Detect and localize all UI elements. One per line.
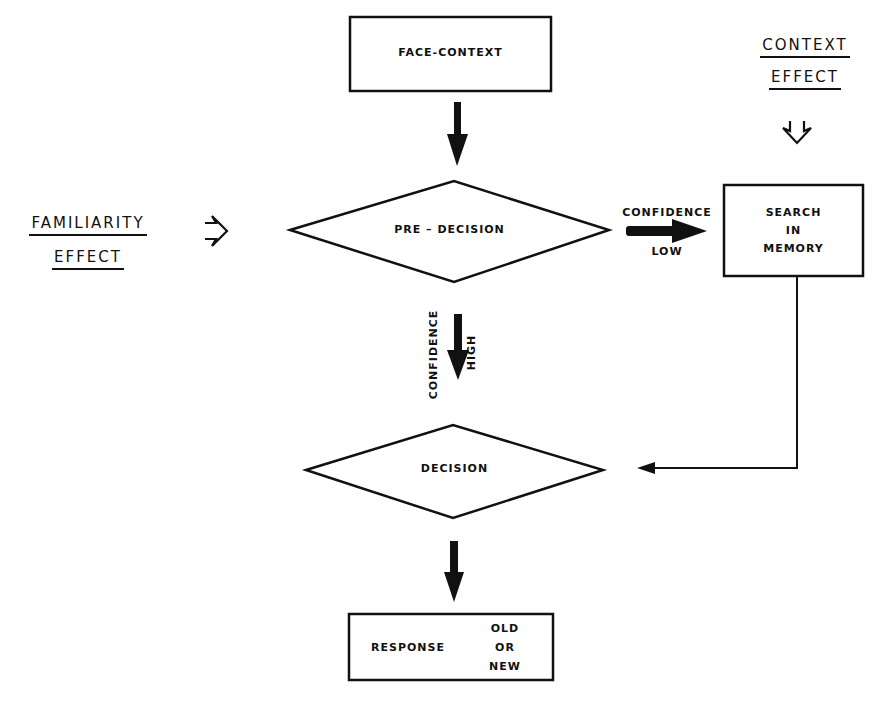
search-label-3: MEMORY (724, 242, 863, 256)
context-effect-line1: CONTEXT (740, 36, 870, 58)
arrow-down-icon (444, 541, 464, 602)
feedback-line (650, 276, 797, 468)
search-label-2: IN (724, 224, 863, 238)
confidence-high-left-label: CONFIDENCE (427, 310, 440, 400)
response-label: RESPONSE (358, 641, 458, 655)
face-context-label: FACE-CONTEXT (350, 46, 551, 60)
context-effect-line2: EFFECT (740, 68, 870, 90)
familiarity-hollow-arrow-icon (205, 216, 227, 246)
arrow-down-icon (447, 102, 468, 166)
response-old: OLD (470, 622, 540, 636)
arrow-right-icon (626, 219, 707, 243)
familiarity-effect-line2: EFFECT (8, 248, 168, 270)
confidence-high-right-label: HIGH (465, 328, 478, 378)
confidence-low-top-label: CONFIDENCE (612, 206, 722, 220)
context-hollow-arrow-icon (783, 121, 811, 143)
pre-decision-label: PRE – DECISION (290, 223, 609, 237)
search-label-1: SEARCH (724, 206, 863, 220)
response-or: OR (470, 641, 540, 655)
familiarity-effect-line1: FAMILIARITY (8, 214, 168, 236)
confidence-low-bottom-label: LOW (612, 245, 722, 259)
arrow-left-icon (637, 462, 655, 474)
decision-label: DECISION (306, 462, 603, 476)
response-new: NEW (470, 660, 540, 674)
